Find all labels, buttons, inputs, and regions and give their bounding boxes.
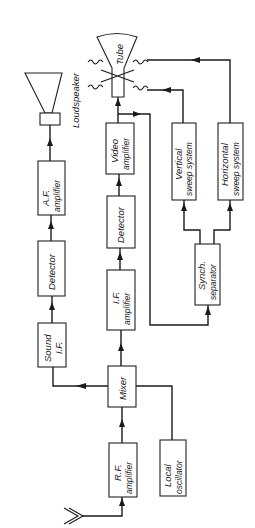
svg-text:Mixer: Mixer [117, 376, 128, 400]
svg-text:I.F.: I.F. [110, 292, 121, 305]
antenna-icon [64, 508, 83, 524]
svg-text:separator: separator [208, 263, 218, 300]
mixer-block: Mixer [108, 366, 136, 407]
synch-separator-block: Synch. separator [195, 244, 220, 305]
wire-horizontal-tube [147, 60, 230, 123]
wire-vertical-tube [147, 90, 183, 123]
svg-text:sweep system: sweep system [184, 142, 194, 196]
arrow-icon [162, 87, 171, 93]
svg-text:Detector: Detector [115, 206, 126, 243]
arrow-icon [47, 138, 53, 146]
tube-label: Tube [114, 44, 125, 65]
svg-text:Detector: Detector [46, 253, 57, 290]
audio-detector-block: Detector [38, 241, 65, 296]
svg-text:amplifier: amplifier [122, 292, 132, 325]
sound-if-block: Sound I.F. [38, 323, 66, 367]
svg-text:Local: Local [162, 463, 173, 487]
arrow-icon [115, 98, 121, 106]
arrow-icon [119, 419, 125, 427]
wire-synch-vertical [184, 200, 200, 244]
arrow-icon [48, 221, 54, 229]
arrow-icon [76, 383, 86, 389]
arrow-icon [49, 302, 55, 310]
svg-text:oscillator: oscillator [174, 459, 184, 494]
wire-antenna-rf [82, 497, 122, 516]
svg-text:Vertical: Vertical [173, 148, 184, 180]
loudspeaker-label: Loudspeaker [70, 72, 81, 128]
svg-text:amplifier: amplifier [124, 461, 134, 494]
video-amplifier-block: Video amplifier [106, 123, 134, 174]
svg-text:amplifier: amplifier [52, 179, 62, 212]
af-amplifier-block: A.F. amplifier [38, 161, 65, 215]
arrow-icon [205, 306, 211, 315]
svg-text:R.F.: R.F. [112, 464, 123, 481]
svg-text:sweep system: sweep system [231, 142, 241, 196]
svg-text:A.F.: A.F. [40, 190, 51, 207]
arrow-icon [117, 252, 123, 260]
wire-osc-mixer [136, 386, 172, 440]
arrow-icon [118, 343, 124, 351]
rf-amplifier-block: R.F. amplifier [109, 443, 137, 497]
wire-mixer-soundif [53, 367, 108, 386]
svg-text:I.F.: I.F. [53, 342, 64, 355]
arrow-icon [191, 57, 200, 63]
svg-text:Synch.: Synch. [196, 261, 207, 290]
if-amplifier-block: I.F. amplifier [107, 270, 135, 330]
svg-text:Video: Video [109, 139, 120, 163]
vertical-sweep-block: Vertical sweep system [172, 123, 196, 200]
wire-synch-horizontal [214, 200, 230, 244]
horizontal-sweep-block: Horizontal sweep system [218, 123, 243, 200]
arrow-icon [133, 111, 141, 117]
video-detector-block: Detector [107, 196, 135, 248]
svg-text:Sound: Sound [42, 334, 53, 362]
arrow-icon [119, 498, 125, 506]
svg-text:Horizontal: Horizontal [219, 142, 230, 186]
arrow-icon [116, 178, 122, 186]
local-oscillator-block: Local oscillator [160, 440, 186, 496]
arrow-icon [227, 203, 233, 211]
tv-receiver-block-diagram: Loudspeaker Tube A.F. amplifier Detector… [0, 0, 255, 528]
svg-text:amplifier: amplifier [121, 137, 131, 170]
arrow-icon [181, 203, 187, 211]
loudspeaker-icon [25, 73, 62, 125]
